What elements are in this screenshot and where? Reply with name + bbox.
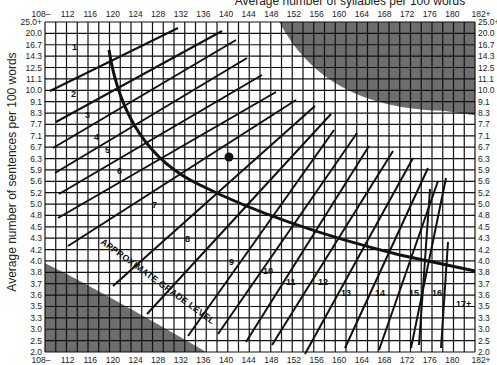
y-tick-label-right: 4.0 bbox=[478, 256, 490, 266]
y-tick-label-left: 7.7 bbox=[30, 119, 42, 129]
grade-label: 12 bbox=[318, 277, 328, 287]
grade-boundary-line bbox=[58, 92, 276, 218]
y-tick-label-right: 3.5 bbox=[478, 301, 490, 311]
grade-boundary-line bbox=[188, 130, 334, 336]
y-tick-label-right: 5.0 bbox=[478, 199, 490, 209]
y-tick-label-right: 4.5 bbox=[478, 222, 490, 232]
y-tick-label-left: 25.0+ bbox=[20, 17, 42, 27]
y-tick-label-right: 12.5 bbox=[478, 63, 495, 73]
x-tick-label-top: 152 bbox=[287, 9, 301, 19]
grade-label: 2 bbox=[71, 89, 76, 99]
grade-label: 6 bbox=[117, 166, 122, 176]
y-tick-label-left: 8.3 bbox=[30, 108, 42, 118]
y-tick-label-left: 3.6 bbox=[30, 290, 42, 300]
y-tick-label-right: 8.3 bbox=[478, 108, 490, 118]
y-tick-label-left: 4.2 bbox=[30, 245, 42, 255]
grade-label: 4 bbox=[94, 132, 99, 142]
grade-label: 16 bbox=[432, 288, 442, 298]
y-tick-label-left: 4.0 bbox=[30, 256, 42, 266]
y-tick-label-right: 5.6 bbox=[478, 176, 490, 186]
y-tick-label-right: 3.6 bbox=[478, 290, 490, 300]
y-tick-label-right: 14.3 bbox=[478, 51, 495, 61]
x-tick-label-bottom: 152 bbox=[287, 355, 301, 365]
x-tick-label-top: 176 bbox=[423, 9, 437, 19]
marked-data-point bbox=[225, 153, 234, 162]
y-tick-label-left: 14.3 bbox=[25, 51, 42, 61]
y-tick-label-left: 3.8 bbox=[30, 267, 42, 277]
x-tick-label-top: 160 bbox=[332, 9, 346, 19]
grade-label: 11 bbox=[286, 277, 296, 287]
y-tick-label-left: 16.7 bbox=[25, 40, 42, 50]
y-tick-label-right: 4.3 bbox=[478, 233, 490, 243]
x-tick-label-bottom: 120 bbox=[106, 355, 120, 365]
y-tick-label-left: 4.3 bbox=[30, 233, 42, 243]
y-tick-label-left: 5.2 bbox=[30, 188, 42, 198]
y-tick-label-right: 3.7 bbox=[478, 279, 490, 289]
y-tick-label-right: 10.0 bbox=[478, 85, 495, 95]
x-tick-label-bottom: 156 bbox=[309, 355, 323, 365]
x-tick-label-bottom: 144 bbox=[242, 355, 256, 365]
y-tick-label-left: 2.0 bbox=[30, 347, 42, 357]
x-tick-label-bottom: 148 bbox=[264, 355, 278, 365]
x-tick-label-top: 128 bbox=[151, 9, 165, 19]
y-tick-label-right: 7.7 bbox=[478, 119, 490, 129]
y-tick-label-right: 11.1 bbox=[478, 74, 494, 84]
x-tick-label-bottom: 180 bbox=[445, 355, 459, 365]
x-tick-label-top: 112 bbox=[61, 9, 75, 19]
x-tick-label-top: 116 bbox=[83, 9, 97, 19]
grade-boundary-line bbox=[59, 75, 262, 194]
grade-label: 10 bbox=[263, 266, 273, 276]
x-tick-label-bottom: 128 bbox=[151, 355, 165, 365]
x-tick-label-bottom: 132 bbox=[174, 355, 188, 365]
y-tick-label-right: 7.1 bbox=[478, 131, 490, 141]
grade-label: 13 bbox=[341, 288, 351, 298]
x-tick-label-top: 120 bbox=[106, 9, 120, 19]
x-tick-label-bottom: 164 bbox=[355, 355, 369, 365]
x-tick-label-top: 180 bbox=[445, 9, 459, 19]
y-tick-label-left: 3.3 bbox=[30, 313, 42, 323]
grade-label: 1 bbox=[72, 42, 77, 52]
x-tick-label-bottom: 160 bbox=[332, 355, 346, 365]
y-tick-label-right: 2.5 bbox=[478, 336, 490, 346]
grade-label: 14 bbox=[375, 288, 385, 298]
y-tick-label-left: 3.5 bbox=[30, 301, 42, 311]
y-tick-label-left: 9.1 bbox=[30, 97, 42, 107]
x-tick-label-top: 172 bbox=[400, 9, 414, 19]
y-tick-label-left: 4.5 bbox=[30, 222, 42, 232]
grade-label: 17+ bbox=[456, 299, 471, 309]
grade-boundary-line bbox=[246, 146, 369, 342]
x-tick-label-bottom: 112 bbox=[61, 355, 75, 365]
y-tick-label-left: 3.0 bbox=[30, 324, 42, 334]
y-tick-label-right: 3.3 bbox=[478, 313, 490, 323]
y-tick-label-right: 9.1 bbox=[478, 97, 490, 107]
y-tick-label-left: 20.0 bbox=[25, 28, 42, 38]
y-tick-label-right: 3.8 bbox=[478, 267, 490, 277]
x-tick-label-top: 132 bbox=[174, 9, 188, 19]
y-tick-label-right: 6.3 bbox=[478, 154, 490, 164]
y-tick-label-left: 2.5 bbox=[30, 336, 42, 346]
grade-boundary-line bbox=[50, 28, 178, 91]
x-tick-label-top: 148 bbox=[264, 9, 278, 19]
grade-label: 7 bbox=[152, 200, 157, 210]
y-tick-label-left: 5.9 bbox=[30, 165, 42, 175]
x-tick-label-bottom: 124 bbox=[128, 355, 142, 365]
y-tick-label-right: 5.9 bbox=[478, 165, 490, 175]
y-tick-label-left: 6.3 bbox=[30, 154, 42, 164]
grade-label: 3 bbox=[85, 110, 90, 120]
x-tick-label-top: 168 bbox=[377, 9, 391, 19]
y-tick-label-left: 5.0 bbox=[30, 199, 42, 209]
x-tick-label-bottom: 136 bbox=[196, 355, 210, 365]
y-tick-label-right: 4.8 bbox=[478, 210, 490, 220]
plot-area: 108–108–11211211611612012012412412812813… bbox=[0, 0, 497, 365]
x-tick-label-bottom: 140 bbox=[219, 355, 233, 365]
y-axis-title: Average number of sentences per 100 word… bbox=[5, 52, 19, 292]
grade-label: 5 bbox=[105, 145, 110, 155]
grade-label: 15 bbox=[409, 288, 419, 298]
y-tick-label-right: 16.7 bbox=[478, 40, 495, 50]
x-tick-label-top: 140 bbox=[219, 9, 233, 19]
y-tick-label-right: 20.0 bbox=[478, 28, 495, 38]
x-tick-label-bottom: 116 bbox=[83, 355, 97, 365]
y-tick-label-right: 6.7 bbox=[478, 142, 490, 152]
x-tick-label-top: 156 bbox=[309, 9, 323, 19]
grade-label: 9 bbox=[229, 257, 234, 267]
